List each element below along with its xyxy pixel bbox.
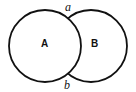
circle-b-label: B (91, 38, 98, 49)
intersection-b-label: b (64, 78, 70, 92)
venn-diagram: A B a b (0, 0, 136, 92)
circle-a-label: A (41, 38, 48, 49)
intersection-a-label: a (65, 0, 71, 14)
